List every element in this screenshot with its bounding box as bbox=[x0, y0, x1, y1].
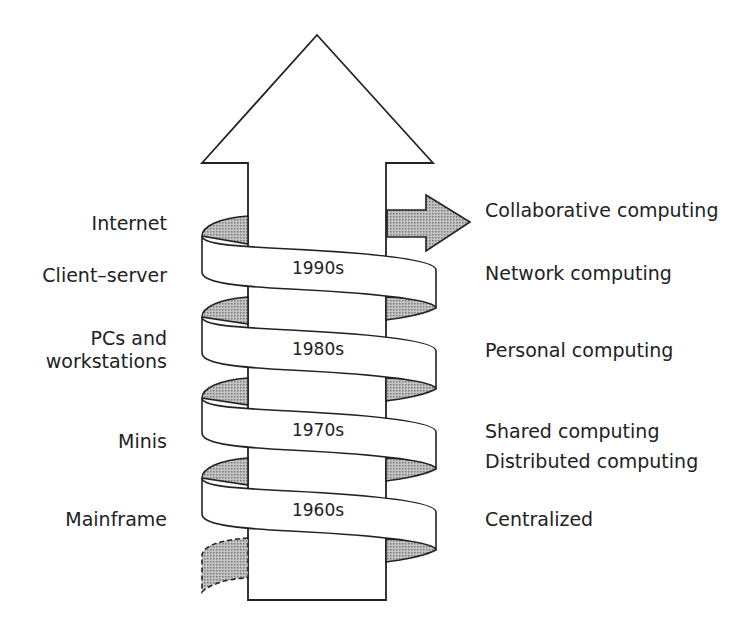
label-minis: Minis bbox=[118, 430, 167, 452]
decade-1980s: 1980s bbox=[278, 339, 358, 359]
label-mainframe: Mainframe bbox=[65, 508, 167, 530]
label-distributed-computing: Distributed computing bbox=[485, 450, 698, 472]
label-shared-computing: Shared computing bbox=[485, 420, 659, 442]
label-workstations: workstations bbox=[46, 350, 167, 372]
decade-1990s: 1990s bbox=[278, 258, 358, 278]
decade-1970s: 1970s bbox=[278, 420, 358, 440]
label-client-server: Client–server bbox=[42, 264, 167, 286]
decade-1960s: 1960s bbox=[278, 500, 358, 520]
label-internet: Internet bbox=[92, 212, 167, 234]
spiral-arrow-graphic bbox=[0, 0, 756, 628]
right-arrow-icon bbox=[387, 195, 470, 251]
label-pcs: PCs and bbox=[91, 327, 167, 349]
label-network-computing: Network computing bbox=[485, 262, 672, 284]
label-centralized: Centralized bbox=[485, 508, 593, 530]
label-collaborative-computing: Collaborative computing bbox=[485, 199, 718, 221]
label-personal-computing: Personal computing bbox=[485, 339, 673, 361]
